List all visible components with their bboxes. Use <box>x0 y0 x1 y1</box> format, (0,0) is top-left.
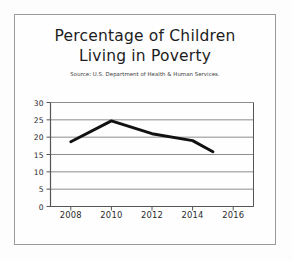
xtick-label-2014: 2014 <box>173 210 213 220</box>
ytick-label-25: 25 <box>24 115 44 124</box>
ytick-label-30: 30 <box>24 98 44 107</box>
chart-page: Percentage of Children Living in Poverty… <box>0 0 292 261</box>
ytick-label-20: 20 <box>24 133 44 142</box>
xtick-label-2012: 2012 <box>132 210 172 220</box>
xtick-label-2008: 2008 <box>51 210 91 220</box>
xtick-label-2010: 2010 <box>91 210 131 220</box>
chart-svg <box>0 0 292 261</box>
ytick-label-5: 5 <box>24 185 44 194</box>
data-line-series-1 <box>71 121 213 152</box>
gridlines-group <box>51 103 254 207</box>
chart-plot-area: 051015202530 20082010201220142016 <box>0 0 292 261</box>
xtick-label-2016: 2016 <box>213 210 253 220</box>
tick-marks-group <box>47 103 234 211</box>
data-line-group <box>71 121 213 152</box>
ytick-label-0: 0 <box>24 202 44 211</box>
ytick-label-15: 15 <box>24 150 44 159</box>
ytick-label-10: 10 <box>24 167 44 176</box>
